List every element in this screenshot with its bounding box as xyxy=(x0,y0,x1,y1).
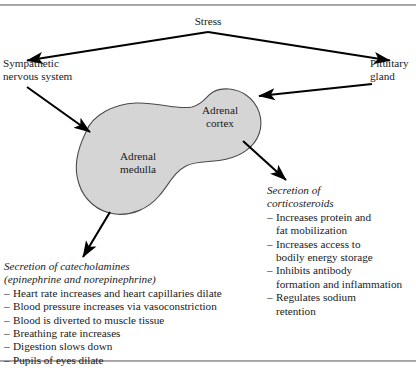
corticosteroids-heading-line-2: corticosteroids xyxy=(267,197,415,210)
dash-marker: – xyxy=(267,211,273,224)
list-item: –Inhibits antibody formation and inflamm… xyxy=(267,264,415,291)
adrenal-stress-response-diagram: Stress Sympathetic nervous system Pituit… xyxy=(0,0,416,374)
list-item-text: Blood pressure increases via vasoconstri… xyxy=(13,300,217,312)
arrow-stress-to-pituitary xyxy=(208,32,390,61)
corticosteroids-list: –Increases protein and fat mobilization … xyxy=(267,211,415,318)
arrow-medulla-to-catecholamines xyxy=(83,212,110,257)
catecholamines-text-block: Secretion of catecholamines (epinephrine… xyxy=(4,260,244,367)
arrow-cortex-to-corticosteroids xyxy=(243,141,286,180)
list-item-text: Pupils of eyes dilate xyxy=(13,354,103,366)
dash-marker: – xyxy=(4,300,10,313)
dash-marker: – xyxy=(4,327,10,340)
list-item-text: Breathing rate increases xyxy=(13,327,120,339)
list-item-text: Inhibits antibody formation and inflamma… xyxy=(276,264,402,291)
dash-marker: – xyxy=(267,291,273,304)
label-adrenal-cortex: Adrenal cortex xyxy=(185,104,255,129)
list-item: –Increases protein and fat mobilization xyxy=(267,211,415,238)
arrow-sympathetic-to-medulla xyxy=(27,87,90,132)
label-sympathetic-nervous-system: Sympathetic nervous system xyxy=(3,57,123,82)
dash-marker: – xyxy=(267,238,273,251)
list-item: –Breathing rate increases xyxy=(4,327,244,340)
label-pituitary-gland: Pituitary gland xyxy=(370,57,416,82)
corticosteroids-heading-line-1: Secretion of xyxy=(267,184,415,197)
list-item-text: Heart rate increases and heart capillari… xyxy=(13,287,222,299)
label-adrenal-medulla: Adrenal medulla xyxy=(100,150,176,175)
dash-marker: – xyxy=(4,287,10,300)
corticosteroids-text-block: Secretion of corticosteroids –Increases … xyxy=(267,184,415,318)
dash-marker: – xyxy=(267,264,273,277)
list-item: –Increases access to bodily energy stora… xyxy=(267,238,415,265)
list-item-text: Digestion slows down xyxy=(13,340,112,352)
list-item-text: Regulates sodium retention xyxy=(276,291,356,318)
list-item: –Heart rate increases and heart capillar… xyxy=(4,287,244,300)
list-item: –Pupils of eyes dilate xyxy=(4,354,244,367)
list-item: –Regulates sodium retention xyxy=(267,291,415,318)
list-item: –Blood is diverted to muscle tissue xyxy=(4,314,244,327)
arrow-pituitary-to-cortex xyxy=(259,84,372,96)
label-stress: Stress xyxy=(178,15,238,28)
dash-marker: – xyxy=(4,340,10,353)
dash-marker: – xyxy=(4,314,10,327)
list-item: –Digestion slows down xyxy=(4,340,244,353)
catecholamines-heading-line-1: Secretion of catecholamines xyxy=(4,260,244,273)
list-item-text: Blood is diverted to muscle tissue xyxy=(13,314,164,326)
list-item-text: Increases access to bodily energy storag… xyxy=(276,238,373,265)
list-item-text: Increases protein and fat mobilization xyxy=(276,211,371,238)
list-item: –Blood pressure increases via vasoconstr… xyxy=(4,300,244,313)
dash-marker: – xyxy=(4,354,10,367)
catecholamines-list: –Heart rate increases and heart capillar… xyxy=(4,287,244,367)
catecholamines-heading-line-2: (epinephrine and norepinephrine) xyxy=(4,273,244,286)
